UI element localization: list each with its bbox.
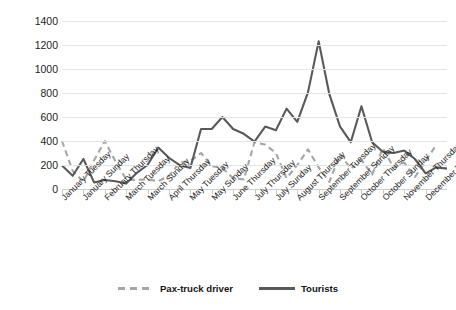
- legend-item-tourists[interactable]: Tourists: [259, 283, 338, 294]
- line-chart: Pasengers (units) 1400120010008006004002…: [0, 0, 456, 310]
- y-axis-tick-label: 1200: [22, 40, 58, 50]
- gridline: [62, 69, 447, 70]
- y-axis-tick-label: 400: [22, 136, 58, 146]
- chart-legend: Pax-truck driver Tourists: [0, 283, 456, 294]
- x-axis-tick-labels: January TuesdayJanuary SundayFebruary Th…: [0, 194, 456, 274]
- gridline: [62, 21, 447, 22]
- gridline: [62, 45, 447, 46]
- legend-label: Pax-truck driver: [160, 283, 233, 294]
- y-axis-tick-label: 600: [22, 112, 58, 122]
- legend-label: Tourists: [301, 283, 338, 294]
- gridline: [62, 93, 447, 94]
- gridline: [62, 117, 447, 118]
- legend-item-pax-truck-driver[interactable]: Pax-truck driver: [118, 283, 233, 294]
- y-axis-tick-label: 0: [22, 184, 58, 194]
- solid-line-swatch-icon: [259, 287, 295, 290]
- y-axis-tick-label: 1400: [22, 16, 58, 26]
- y-axis-tick-label: 800: [22, 88, 58, 98]
- y-axis-tick-label: 1000: [22, 64, 58, 74]
- y-axis-tick-label: 200: [22, 160, 58, 170]
- dashed-line-swatch-icon: [118, 287, 154, 290]
